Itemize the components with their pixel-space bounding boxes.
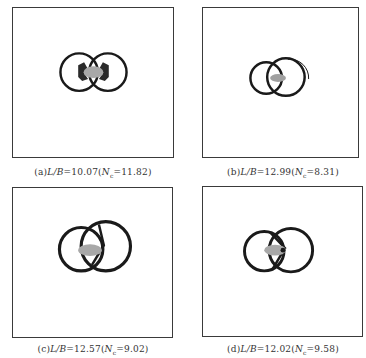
- panel-c: [12, 187, 173, 338]
- panel-label: (d): [227, 344, 240, 354]
- panel-label: (c): [37, 344, 50, 354]
- n-value: 9.58: [314, 344, 335, 354]
- panel-a: [12, 7, 174, 158]
- apex-point: [281, 248, 286, 253]
- ratio-label: L/B: [50, 344, 66, 354]
- rigid-core: [270, 74, 286, 82]
- n-label: N: [102, 167, 110, 177]
- n-value: 9.02: [124, 344, 145, 354]
- failure-mechanism-diagram-d: [203, 187, 362, 336]
- n-value: 11.82: [121, 167, 148, 177]
- n-label: N: [295, 344, 303, 354]
- ratio-label: L/B: [47, 167, 63, 177]
- failure-mechanism-diagram-c: [13, 188, 172, 337]
- ratio-label: L/B: [240, 344, 256, 354]
- n-subscript: c: [113, 349, 117, 356]
- caption-b: (b)L/B=12.99(Nc=8.31): [208, 167, 358, 179]
- failure-mechanism-diagram-b: [203, 8, 358, 157]
- caption-a: (a)L/B=10.07(Nc=11.82): [18, 167, 168, 179]
- ratio-value: 12.99: [264, 167, 291, 177]
- ratio-value: 10.07: [71, 167, 98, 177]
- rigid-core: [78, 244, 102, 256]
- n-subscript: c: [110, 172, 114, 179]
- n-subscript: c: [303, 172, 307, 179]
- n-label: N: [105, 344, 113, 354]
- rigid-core: [84, 66, 104, 78]
- ratio-value: 12.57: [74, 344, 101, 354]
- caption-c: (c)L/B=12.57(Nc=9.02): [18, 344, 168, 356]
- ratio-value: 12.02: [264, 344, 291, 354]
- n-value: 8.31: [314, 167, 335, 177]
- panel-label: (a): [34, 167, 47, 177]
- failure-mechanism-diagram-a: [13, 8, 173, 157]
- ratio-label: L/B: [240, 167, 256, 177]
- panel-label: (b): [227, 167, 240, 177]
- n-subscript: c: [303, 349, 307, 356]
- caption-d: (d)L/B=12.02(Nc=9.58): [208, 344, 358, 356]
- panel-d: [202, 186, 363, 337]
- n-label: N: [295, 167, 303, 177]
- panel-b: [202, 7, 359, 158]
